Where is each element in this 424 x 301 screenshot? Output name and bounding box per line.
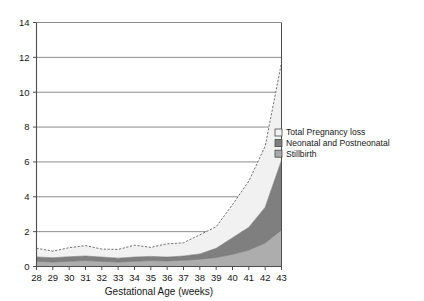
legend-swatch (275, 150, 282, 157)
x-tick-label: 37 (178, 272, 189, 283)
x-tick-label: 30 (64, 272, 75, 283)
x-tick-label: 31 (80, 272, 91, 283)
legend-label: Neonatal and Postneonatal (286, 138, 390, 148)
y-tick-label: 6 (24, 156, 29, 167)
x-tick-label: 41 (244, 272, 255, 283)
y-tick-label: 2 (24, 226, 29, 237)
x-tick-label: 35 (146, 272, 157, 283)
y-tick-label: 0 (24, 261, 29, 272)
legend-swatch (275, 129, 282, 136)
y-tick-label: 4 (24, 191, 29, 202)
legend-swatch (275, 140, 282, 147)
stacked-area-chart: 02468101214 2829303132333435363738394041… (0, 0, 424, 301)
x-tick-label: 29 (48, 272, 59, 283)
x-tick-label: 32 (97, 272, 108, 283)
x-axis-title: Gestational Age (weeks) (105, 286, 213, 297)
x-tick-label: 28 (31, 272, 42, 283)
y-tick-label: 12 (19, 52, 30, 63)
legend-label: Stillbirth (286, 149, 317, 159)
y-tick-label: 14 (19, 17, 30, 28)
y-tick-label: 10 (19, 87, 30, 98)
chart-figure: 02468101214 2829303132333435363738394041… (0, 0, 424, 301)
y-tick-label: 8 (24, 121, 29, 132)
x-tick-label: 38 (195, 272, 206, 283)
x-tick-label: 39 (211, 272, 222, 283)
x-tick-label: 34 (129, 272, 140, 283)
x-tick-label: 42 (260, 272, 271, 283)
x-tick-label: 33 (113, 272, 124, 283)
x-tick-label: 43 (276, 272, 287, 283)
legend-label: Total Pregnancy loss (286, 127, 365, 137)
x-tick-label: 36 (162, 272, 173, 283)
x-tick-label: 40 (227, 272, 238, 283)
